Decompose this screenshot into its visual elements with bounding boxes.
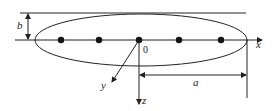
y-axis-label: y xyxy=(100,79,106,91)
y-axis xyxy=(112,40,139,82)
point-mass xyxy=(58,37,64,43)
b-label: b xyxy=(17,19,23,31)
x-axis-label: x xyxy=(255,38,261,50)
point-mass xyxy=(218,37,224,43)
z-axis-label: z xyxy=(141,94,147,106)
point-mass xyxy=(176,37,182,43)
ellipsoid-diagram: x 0 y z a b xyxy=(0,0,277,111)
a-label: a xyxy=(193,76,199,88)
point-mass xyxy=(96,37,102,43)
origin-label: 0 xyxy=(143,44,148,55)
